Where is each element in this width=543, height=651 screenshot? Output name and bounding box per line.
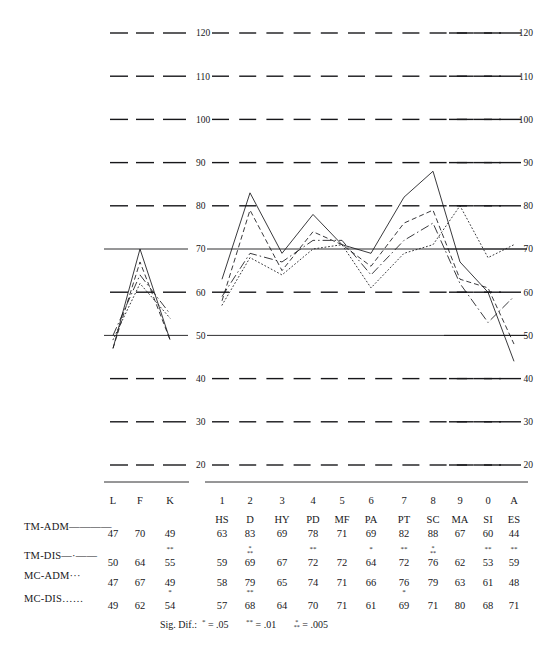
table-header-scale-HS: HS xyxy=(208,514,236,525)
cell-tm-adm-PA: 69 xyxy=(357,528,385,539)
sig-tm-dis-D: *** xyxy=(243,546,257,556)
cell-tm-adm-HY: 69 xyxy=(268,528,296,539)
table-header-scale-number-9: 9 xyxy=(446,495,474,506)
y-axis-label-left-120: 120 xyxy=(196,28,211,38)
table-header-scale-number-6: 6 xyxy=(357,495,385,506)
sig-mc-dis-PT: * xyxy=(390,589,418,596)
cell-mc-adm-PD: 74 xyxy=(299,577,327,588)
cell-mc-dis-D: 68 xyxy=(236,600,264,611)
y-axis-label-left-70: 70 xyxy=(196,244,206,254)
y-axis-label-right-110: 110 xyxy=(519,72,533,82)
y-axis-label-right-40: 40 xyxy=(524,374,534,384)
cell-tm-adm-L: 47 xyxy=(99,528,127,539)
table-header-scale-number-A: A xyxy=(500,495,528,506)
table-header-scale-MA: MA xyxy=(446,514,474,525)
cell-tm-adm-F: 70 xyxy=(126,528,154,539)
cell-mc-adm-SI: 61 xyxy=(474,577,502,588)
cell-tm-dis-SC: 76 xyxy=(419,557,447,568)
cell-tm-dis-ES: 59 xyxy=(500,557,528,568)
y-axis-label-left-110: 110 xyxy=(196,72,210,82)
table-header-scale-HY: HY xyxy=(268,514,296,525)
table-header-validity-K: K xyxy=(156,495,184,506)
cell-tm-dis-HY: 67 xyxy=(268,557,296,568)
y-axis-label-right-60: 60 xyxy=(524,288,534,298)
series-tm-dis-validity xyxy=(113,275,170,335)
cell-tm-dis-L: 50 xyxy=(99,557,127,568)
cell-mc-dis-L: 49 xyxy=(99,600,127,611)
cell-mc-dis-SC: 71 xyxy=(419,600,447,611)
table-row-label-mc-adm: MC-ADM··· xyxy=(24,570,81,581)
sig-tm-dis-SI: ** xyxy=(474,546,502,553)
table-header-validity-L: L xyxy=(99,495,127,506)
y-axis-label-left-90: 90 xyxy=(196,158,206,168)
footnote-mark-3: *** xyxy=(294,620,300,630)
cell-tm-adm-SI: 60 xyxy=(474,528,502,539)
table-header-scale-number-1: 1 xyxy=(208,495,236,506)
table-header-scale-number-3: 3 xyxy=(268,495,296,506)
y-axis-label-left-20: 20 xyxy=(196,460,206,470)
table-header-scale-SI: SI xyxy=(474,514,502,525)
table-header-scale-PD: PD xyxy=(299,514,327,525)
cell-tm-adm-SC: 88 xyxy=(419,528,447,539)
footnote-value-01: .01 xyxy=(264,619,277,630)
table-header-scale-SC: SC xyxy=(419,514,447,525)
y-axis-label-right-20: 20 xyxy=(524,460,534,470)
cell-mc-dis-SI: 68 xyxy=(474,600,502,611)
sig-mc-dis-K: * xyxy=(156,589,184,596)
y-axis-label-left-30: 30 xyxy=(196,417,206,427)
table-header-scale-number-8: 8 xyxy=(419,495,447,506)
cell-mc-adm-PA: 66 xyxy=(357,577,385,588)
cell-tm-adm-D: 83 xyxy=(236,528,264,539)
footnote-mark-1: * xyxy=(202,618,206,626)
significance-footnote: Sig. Dif.: * = .05 ** = .01 *** = .005 xyxy=(160,618,328,630)
table-row-label-tm-dis: TM-DIS—·—— xyxy=(24,550,97,561)
footnote-value-005: .005 xyxy=(310,619,328,630)
sig-tm-dis-PT: ** xyxy=(390,546,418,553)
cell-mc-dis-F: 62 xyxy=(126,600,154,611)
cell-tm-dis-F: 64 xyxy=(126,557,154,568)
table-header-scale-ES: ES xyxy=(500,514,528,525)
y-axis-label-right-80: 80 xyxy=(524,201,534,211)
cell-tm-adm-K: 49 xyxy=(156,528,184,539)
table-header-validity-F: F xyxy=(126,495,154,506)
cell-tm-adm-MA: 67 xyxy=(446,528,474,539)
y-axis-label-left-100: 100 xyxy=(196,115,211,125)
cell-tm-adm-ES: 44 xyxy=(500,528,528,539)
table-header-scale-number-2: 2 xyxy=(236,495,264,506)
cell-mc-dis-PT: 69 xyxy=(390,600,418,611)
cell-mc-adm-HY: 65 xyxy=(268,577,296,588)
cell-tm-adm-MF: 71 xyxy=(328,528,356,539)
cell-tm-dis-MF: 72 xyxy=(328,557,356,568)
cell-tm-dis-K: 55 xyxy=(156,557,184,568)
cell-mc-adm-SC: 79 xyxy=(419,577,447,588)
cell-mc-adm-PT: 76 xyxy=(390,577,418,588)
table-header-scale-PA: PA xyxy=(357,514,385,525)
cell-tm-dis-MA: 62 xyxy=(446,557,474,568)
y-axis-label-right-90: 90 xyxy=(524,158,534,168)
table-header-scale-number-0: 0 xyxy=(474,495,502,506)
score-table: LFK1234567890AHSDHYPDMFPAPTSCMASIESTM-AD… xyxy=(0,470,543,651)
cell-mc-dis-PD: 70 xyxy=(299,600,327,611)
cell-mc-dis-K: 54 xyxy=(156,600,184,611)
sig-tm-dis-SC: *** xyxy=(426,546,440,556)
cell-tm-dis-PT: 72 xyxy=(390,557,418,568)
footnote-mark-2: ** xyxy=(246,618,253,626)
profile-sheet: 1201201101101001009090808070706060505040… xyxy=(0,0,543,651)
y-axis-label-left-80: 80 xyxy=(196,201,206,211)
cell-tm-dis-PA: 64 xyxy=(357,557,385,568)
cell-mc-adm-D: 79 xyxy=(236,577,264,588)
y-axis-label-right-30: 30 xyxy=(524,417,534,427)
cell-tm-adm-HS: 63 xyxy=(208,528,236,539)
cell-mc-dis-HY: 64 xyxy=(268,600,296,611)
table-header-scale-number-7: 7 xyxy=(390,495,418,506)
cell-mc-adm-MA: 63 xyxy=(446,577,474,588)
cell-mc-dis-ES: 71 xyxy=(500,600,528,611)
cell-mc-dis-PA: 61 xyxy=(357,600,385,611)
cell-tm-dis-SI: 53 xyxy=(474,557,502,568)
sig-tm-dis-K: ** xyxy=(156,546,184,553)
cell-mc-adm-MF: 71 xyxy=(328,577,356,588)
sig-tm-dis-PD: ** xyxy=(299,546,327,553)
cell-tm-dis-D: 69 xyxy=(236,557,264,568)
cell-tm-adm-PD: 78 xyxy=(299,528,327,539)
table-header-scale-MF: MF xyxy=(328,514,356,525)
